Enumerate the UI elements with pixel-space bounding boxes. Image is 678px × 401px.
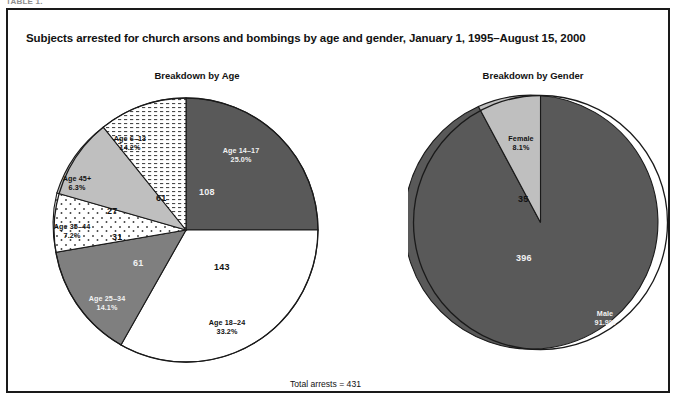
total-arrests-note: Total arrests = 431 — [290, 379, 361, 389]
slice-label-age-18-24-line1: Age 18–24 — [209, 318, 245, 327]
slice-label-gender-male: Male 91.9% — [570, 309, 640, 327]
slice-label-gender-female: Female 8.1% — [486, 134, 556, 152]
slice-label-age-18-24-line2: 33.2% — [217, 327, 238, 336]
slice-value-gender-female: 35 — [518, 194, 528, 204]
slice-label-age-25-34: Age 25–34 14.1% — [67, 294, 147, 312]
pie-chart-age: Age 14–17 25.0% 108 Age 18–24 33.2% 143 … — [46, 90, 326, 370]
slice-label-age-6-13: Age 6–13 14.2% — [90, 134, 170, 152]
slice-label-age-14-17-line2: 25.0% — [231, 155, 252, 164]
slice-value-age-14-17: 108 — [199, 187, 215, 197]
slice-label-age-18-24: Age 18–24 33.2% — [187, 318, 267, 336]
slice-label-age-45-plus-line2: 6.3% — [69, 183, 86, 192]
slice-label-gender-female-line2: 8.1% — [513, 143, 530, 152]
slice-label-age-35-44-line1: Age 35–44 — [54, 222, 90, 231]
slice-label-age-35-44-line2: 7.2% — [64, 231, 81, 240]
slice-label-age-45-plus: Age 45+ 6.3% — [42, 174, 112, 192]
slice-label-age-14-17-line1: Age 14–17 — [223, 146, 259, 155]
slice-label-age-25-34-line2: 14.1% — [97, 303, 118, 312]
slice-label-gender-male-line1: Male — [597, 309, 613, 318]
slice-label-age-6-13-line2: 14.2% — [120, 143, 141, 152]
slice-label-age-6-13-line1: Age 6–13 — [114, 134, 146, 143]
pie-chart-gender: Female 8.1% 35 Male 91.9% 396 — [408, 90, 673, 355]
slice-value-age-6-13: 61 — [156, 193, 166, 203]
figure-title: Subjects arrested for church arsons and … — [26, 32, 586, 44]
slice-label-age-35-44: Age 35–44 7.2% — [32, 222, 112, 240]
slice-value-age-45-plus: 27 — [107, 206, 117, 216]
slice-label-gender-female-line1: Female — [508, 134, 533, 143]
slice-label-age-45-plus-line1: Age 45+ — [63, 174, 91, 183]
slice-value-age-18-24: 143 — [214, 262, 230, 272]
slice-label-gender-male-line2: 91.9% — [595, 318, 616, 327]
slice-label-age-14-17: Age 14–17 25.0% — [201, 146, 281, 164]
slice-value-gender-male: 396 — [516, 253, 532, 263]
figure-frame: Subjects arrested for church arsons and … — [6, 8, 670, 393]
panel-title-age: Breakdown by Age — [82, 70, 312, 81]
panel-title-gender: Breakdown by Gender — [438, 70, 628, 81]
slice-value-age-35-44: 31 — [112, 232, 122, 242]
scan-header-text: TABLE 1. — [6, 0, 206, 5]
slice-label-age-25-34-line1: Age 25–34 — [89, 294, 125, 303]
slice-value-age-25-34: 61 — [133, 258, 143, 268]
